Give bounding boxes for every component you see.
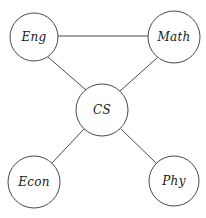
node-label-phy: Phy	[161, 174, 185, 188]
node-econ[interactable]: Econ	[8, 156, 60, 208]
node-label-math: Math	[156, 30, 190, 44]
edge-math-cs	[120, 58, 157, 91]
node-label-cs: CS	[93, 103, 111, 117]
node-label-econ: Econ	[17, 175, 50, 189]
graph-diagram: Eng Math CS Econ Phy	[0, 0, 206, 218]
edge-cs-econ	[52, 129, 84, 163]
node-label-eng: Eng	[20, 30, 46, 44]
node-cs[interactable]: CS	[76, 84, 128, 136]
edge-eng-cs	[48, 57, 86, 90]
edge-cs-phy	[121, 129, 156, 163]
node-phy[interactable]: Phy	[149, 156, 199, 206]
node-math[interactable]: Math	[148, 11, 200, 63]
node-eng[interactable]: Eng	[10, 13, 58, 61]
